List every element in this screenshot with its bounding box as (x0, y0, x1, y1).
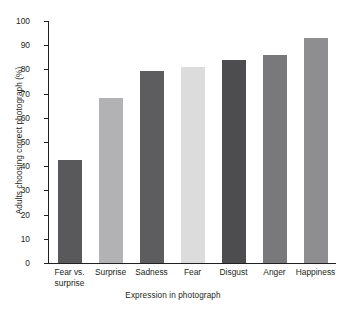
y-tick-label-30: 30 (4, 186, 30, 194)
y-tick-label-0: 0 (4, 259, 30, 267)
x-axis-line (48, 263, 336, 264)
bar (58, 160, 82, 263)
y-tick-0 (44, 263, 48, 264)
x-tick-label: Anger (254, 267, 295, 278)
y-tick-label-70: 70 (4, 90, 30, 98)
x-tick-label: Disgust (213, 267, 254, 278)
y-tick-30 (44, 190, 48, 191)
bar (140, 71, 164, 263)
y-tick-label-100: 100 (4, 17, 30, 25)
y-tick-label-60: 60 (4, 114, 30, 122)
plot-area: 0102030405060708090100 (48, 21, 335, 263)
bar (222, 60, 246, 263)
y-tick-label-40: 40 (4, 162, 30, 170)
x-tick-label: Fear vs.surprise (49, 267, 90, 288)
y-tick-label-90: 90 (4, 41, 30, 49)
y-tick-label-20: 20 (4, 211, 30, 219)
x-axis-title: Expression in photograph (0, 291, 346, 300)
y-tick-50 (44, 142, 48, 143)
y-tick-80 (44, 69, 48, 70)
y-tick-label-80: 80 (4, 65, 30, 73)
y-tick-70 (44, 94, 48, 95)
x-tick-label: Sadness (131, 267, 172, 278)
x-tick-label: Happiness (295, 267, 336, 278)
bar-series (49, 21, 336, 263)
y-tick-60 (44, 118, 48, 119)
bar (181, 67, 205, 263)
bar (99, 98, 123, 263)
y-tick-100 (44, 21, 48, 22)
y-tick-label-50: 50 (4, 138, 30, 146)
y-tick-label-10: 10 (4, 235, 30, 243)
x-tick-label: Surprise (90, 267, 131, 278)
bar (263, 55, 287, 263)
x-tick-label: Fear (172, 267, 213, 278)
bar (304, 38, 328, 263)
y-tick-10 (44, 239, 48, 240)
y-tick-90 (44, 45, 48, 46)
bar-chart: Adults choosing correct photograph (%) 0… (0, 0, 346, 311)
y-tick-20 (44, 215, 48, 216)
y-tick-40 (44, 166, 48, 167)
